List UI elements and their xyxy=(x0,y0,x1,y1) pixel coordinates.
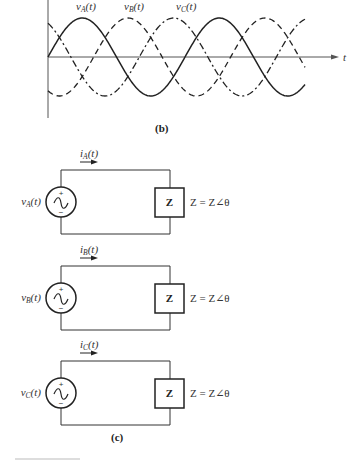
plus-sign: + xyxy=(59,285,64,294)
top-wire xyxy=(61,170,170,188)
caption-c: (c) xyxy=(111,431,124,444)
current-arrow-icon xyxy=(91,256,98,261)
impedance-equation: Z = Z∠θ xyxy=(190,387,230,399)
t-axis-label: t xyxy=(343,51,347,63)
bottom-wire xyxy=(61,313,170,330)
top-wire xyxy=(61,361,170,379)
circuit-a: + − vA(t) iA(t) Z Z = Z∠θ xyxy=(21,147,230,234)
impedance-equation: Z = Z∠θ xyxy=(190,196,230,208)
circuit-group: + − vA(t) iA(t) Z Z = Z∠θ + − vB(t) iB(t… xyxy=(21,147,230,425)
plus-sign: + xyxy=(59,380,64,389)
current-label: iC(t) xyxy=(80,338,99,352)
caption-b: (b) xyxy=(155,122,169,135)
current-label: iB(t) xyxy=(80,243,98,257)
impedance-symbol: Z xyxy=(166,387,173,399)
label-va: vA(t) xyxy=(76,0,96,14)
source-label: vA(t) xyxy=(21,195,41,209)
top-wire xyxy=(61,266,170,284)
minus-sign: − xyxy=(59,399,64,408)
minus-sign: − xyxy=(59,208,64,217)
source-label: vB(t) xyxy=(21,291,41,305)
source-label: vC(t) xyxy=(21,386,42,400)
current-label: iA(t) xyxy=(80,147,98,161)
current-arrow-icon xyxy=(91,160,98,165)
bottom-wire xyxy=(61,217,170,234)
t-axis-arrow-icon xyxy=(331,55,339,60)
plus-sign: + xyxy=(59,189,64,198)
impedance-equation: Z = Z∠θ xyxy=(190,292,230,304)
current-arrow-icon xyxy=(91,351,98,356)
waveform-plot: t vA(t) vB(t) vC(t) (b) xyxy=(48,0,347,135)
minus-sign: − xyxy=(59,304,64,313)
label-vb: vB(t) xyxy=(124,0,144,14)
impedance-symbol: Z xyxy=(166,196,173,208)
circuit-c: + − vC(t) iC(t) Z Z = Z∠θ xyxy=(21,338,230,425)
three-phase-figure: t vA(t) vB(t) vC(t) (b) + − vA(t) iA(t) … xyxy=(0,0,363,460)
bottom-wire xyxy=(61,408,170,425)
impedance-symbol: Z xyxy=(166,292,173,304)
label-vc: vC(t) xyxy=(176,0,197,14)
circuit-b: + − vB(t) iB(t) Z Z = Z∠θ xyxy=(21,243,230,330)
